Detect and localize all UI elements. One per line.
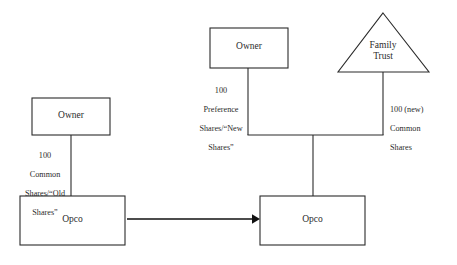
before-share-edge-line2: Common — [14, 170, 76, 180]
family-trust-share-edge-line2: Common — [390, 124, 454, 134]
after-owner-share-edge-label: 100 Preference Shares/“New Shares” — [190, 76, 252, 162]
diagram-canvas: Owner Opco Owner Family Trust Opco 100 C… — [0, 0, 457, 265]
after-owner-share-edge-line3: Shares/“New — [190, 124, 252, 134]
before-share-edge-line3: Shares/“Old — [14, 189, 76, 199]
after-opco-box[interactable] — [260, 196, 365, 245]
before-share-edge-label: 100 Common Shares/“Old Shares” — [14, 141, 76, 227]
family-trust-share-edge-line3: Shares — [390, 143, 454, 153]
after-owner-box[interactable] — [210, 28, 288, 68]
before-share-edge-line1: 100 — [14, 151, 76, 161]
transformation-arrow — [127, 214, 260, 224]
family-trust-triangle[interactable] — [338, 13, 429, 72]
after-owner-share-edge-line1: 100 — [190, 86, 252, 96]
before-share-edge-line4: Shares” — [14, 208, 76, 218]
after-owner-share-edge-line4: Shares” — [190, 143, 252, 153]
family-trust-share-edge-line1: 100 (new) — [390, 105, 454, 115]
before-owner-box[interactable] — [32, 98, 110, 135]
after-owner-share-edge-line2: Preference — [190, 105, 252, 115]
family-trust-share-edge-label: 100 (new) Common Shares — [390, 95, 454, 162]
